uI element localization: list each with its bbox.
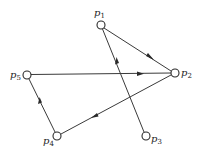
label-p1: p1 [94, 7, 105, 20]
graph-diagram: p1 p2 p3 p4 p5 [0, 0, 199, 151]
node-p4 [53, 132, 61, 140]
arrow-p5-p2-icon [137, 72, 144, 77]
arrow-p2-p4-icon [91, 113, 99, 118]
edge-p4-p5 [29, 79, 55, 132]
edge-p1-p2 [104, 28, 171, 71]
edge-p2-p4 [61, 75, 171, 134]
label-p5: p5 [10, 69, 21, 82]
edge-p5-p2 [31, 73, 171, 75]
node-p1 [97, 21, 105, 29]
label-p3: p3 [151, 133, 162, 146]
node-p3 [142, 132, 150, 140]
node-p2 [171, 69, 179, 77]
node-p5 [23, 71, 31, 79]
arrow-p1-p2-head [146, 53, 154, 60]
label-p2: p2 [181, 67, 192, 80]
edge-p3-p1 [103, 29, 145, 132]
